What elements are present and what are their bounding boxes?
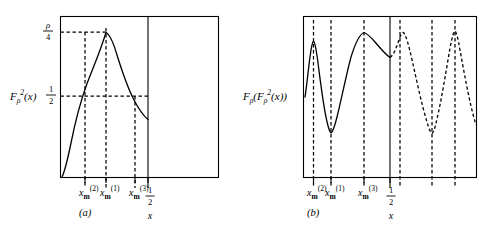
panel-b-curve-solid xyxy=(305,33,390,134)
panel-b-xtick0-sub: m xyxy=(311,192,318,201)
svg-text:xm(3): xm(3) xyxy=(128,184,149,201)
panel-b-label: (b) xyxy=(307,207,320,219)
panel-b-xtick1-sub: m xyxy=(329,192,336,201)
figure-svg: Fρ2(x) ρ 4 1 2 xm(2) xyxy=(0,0,485,232)
panel-a-xtick-label-xm2: xm(2) xyxy=(78,184,99,201)
panel-a-xtick0-sub: m xyxy=(83,192,90,201)
panel-b-xtick3-num: 1 xyxy=(389,185,393,195)
panel-a-xtick1-sub: m xyxy=(104,192,111,201)
svg-text:Fρ(Fρ2(x)): Fρ(Fρ2(x)) xyxy=(242,88,287,105)
figure-container: Fρ2(x) ρ 4 1 2 xm(2) xyxy=(0,0,485,232)
panel-b-ylabel-inner-sub: ρ xyxy=(263,96,268,105)
panel-b-xtick2-sup: (3) xyxy=(369,184,378,193)
panel-a-xtick1-sup: (1) xyxy=(111,184,120,193)
panel-b-xtick-label-xm2: xm(2) xyxy=(306,184,327,201)
panel-a-xtick3-num: 1 xyxy=(148,185,152,195)
svg-text:xm(1): xm(1) xyxy=(99,184,120,201)
panel-a-ylabel-sub: ρ xyxy=(16,96,21,105)
panel-b-xtick3-den: 2 xyxy=(389,197,393,207)
panel-b-curve-dashed xyxy=(390,31,477,134)
panel-b-ylabel-close: (x)) xyxy=(271,90,287,103)
svg-text:Fρ2(x): Fρ2(x) xyxy=(9,88,37,105)
panel-a-xtick0-sup: (2) xyxy=(90,184,99,193)
svg-text:xm(2): xm(2) xyxy=(78,184,99,201)
panel-a-ytick-rho-over-4: ρ 4 xyxy=(43,20,53,42)
panel-a-xtick3-den: 2 xyxy=(148,197,152,207)
panel-b-ylabel-open: (F xyxy=(253,90,264,103)
panel-b-xtick-label-half: 1 2 xyxy=(387,185,396,207)
panel-b-xlabel: x xyxy=(388,210,394,221)
panel-b-ylabel: Fρ(Fρ2(x)) xyxy=(242,88,287,105)
panel-a-plot-frame xyxy=(61,17,219,178)
panel-b-xtick-label-xm3: xm(3) xyxy=(357,184,378,201)
panel-b-xtick1-sup: (1) xyxy=(336,184,345,193)
panel-a-ytick-one-half: 1 2 xyxy=(46,84,56,106)
panel-b: Fρ(Fρ2(x)) xm(2) xm(1) xm(3) xyxy=(242,17,477,222)
panel-a-xtick2-sub: m xyxy=(133,192,140,201)
panel-a: Fρ2(x) ρ 4 1 2 xm(2) xyxy=(9,17,219,222)
panel-a-ylabel: Fρ2(x) xyxy=(9,88,37,105)
panel-a-ylabel-arg: (x) xyxy=(24,90,37,103)
panel-b-xtick-label-xm1: xm(1) xyxy=(324,184,345,201)
panel-b-xtick2-sub: m xyxy=(362,192,369,201)
svg-text:xm(2): xm(2) xyxy=(306,184,327,201)
panel-a-ytick-top-num: ρ xyxy=(45,20,50,30)
panel-a-ytick-mid-den: 2 xyxy=(49,96,53,106)
panel-a-label: (a) xyxy=(79,207,92,219)
panel-a-xtick-label-xm1: xm(1) xyxy=(99,184,120,201)
panel-a-ytick-top-den: 4 xyxy=(46,32,51,42)
panel-a-ytick-mid-num: 1 xyxy=(49,84,53,94)
svg-text:xm(3): xm(3) xyxy=(357,184,378,201)
svg-text:xm(1): xm(1) xyxy=(324,184,345,201)
panel-a-xtick-label-xm3: xm(3) xyxy=(128,184,149,201)
panel-a-xlabel: x xyxy=(147,210,153,221)
